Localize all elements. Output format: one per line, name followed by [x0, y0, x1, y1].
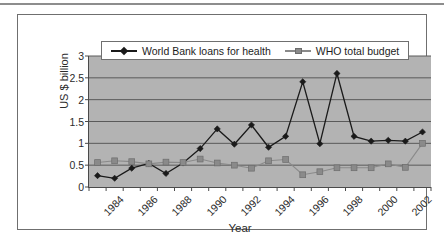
data-point-marker	[266, 158, 272, 164]
x-axis-title: Year	[18, 222, 444, 234]
data-point-marker	[351, 133, 357, 139]
data-point-marker	[163, 170, 169, 176]
legend-label-who: WHO total budget	[316, 45, 399, 57]
data-point-marker	[300, 79, 306, 85]
y-tick-label: 0.5	[69, 159, 84, 171]
y-tick-label: 2	[78, 94, 84, 106]
data-point-marker	[334, 165, 340, 171]
data-point-marker	[317, 169, 323, 175]
data-point-marker	[317, 141, 323, 147]
y-tick-label: 1.5	[69, 116, 84, 128]
data-point-marker	[231, 162, 237, 168]
data-point-marker	[420, 140, 426, 146]
x-tick-label: 2002	[409, 193, 434, 218]
x-tick-label: 1996	[306, 193, 331, 218]
y-tick-label: 3	[78, 50, 84, 62]
data-point-marker	[163, 159, 169, 165]
data-point-marker	[351, 165, 357, 171]
data-point-marker	[146, 161, 152, 167]
data-point-marker	[300, 172, 306, 178]
top-divider	[0, 3, 444, 5]
data-point-marker	[334, 70, 340, 76]
y-axis-tick-labels: 00.511.522.53	[54, 56, 84, 187]
data-point-marker	[197, 156, 203, 162]
x-tick-label: 1998	[340, 193, 365, 218]
plot-area	[88, 56, 431, 188]
data-point-marker	[385, 161, 391, 167]
data-point-marker	[368, 165, 374, 171]
x-tick-label: 1994	[272, 193, 297, 218]
data-point-marker	[95, 160, 101, 166]
chart-canvas	[89, 56, 431, 187]
figure-container: US $ billion 00.511.522.53 1984198619881…	[17, 14, 427, 230]
legend-item-who: WHO total budget	[285, 45, 399, 57]
data-point-marker	[129, 165, 135, 171]
y-tick-label: 2.5	[69, 72, 84, 84]
data-point-marker	[129, 159, 135, 165]
diamond-marker-icon	[111, 46, 137, 56]
data-point-marker	[283, 133, 289, 139]
chart-legend: World Bank loans for health WHO total bu…	[101, 41, 409, 60]
x-tick-label: 1986	[135, 193, 160, 218]
chart-screenshot: US $ billion 00.511.522.53 1984198619881…	[0, 0, 444, 248]
data-point-marker	[419, 129, 425, 135]
x-tick-label: 1984	[101, 193, 126, 218]
data-point-marker	[283, 157, 289, 163]
data-point-marker	[94, 173, 100, 179]
data-point-marker	[385, 137, 391, 143]
x-tick-label: 1988	[169, 193, 194, 218]
x-tick-label: 2000	[374, 193, 399, 218]
data-point-marker	[180, 160, 186, 166]
x-tick-label: 1992	[238, 193, 263, 218]
square-marker-icon	[285, 46, 311, 56]
data-point-marker	[402, 164, 408, 170]
data-point-marker	[112, 175, 118, 181]
legend-label-world-bank: World Bank loans for health	[142, 45, 271, 57]
data-point-marker	[112, 158, 118, 164]
x-tick-label: 1990	[203, 193, 228, 218]
data-point-marker	[214, 160, 220, 166]
y-tick-label: 1	[78, 137, 84, 149]
data-point-marker	[249, 165, 255, 171]
legend-item-world-bank: World Bank loans for health	[111, 45, 271, 57]
